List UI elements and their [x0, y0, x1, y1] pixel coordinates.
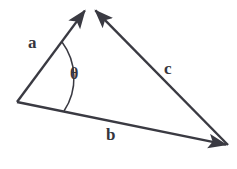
vector-diagram-canvas [0, 0, 237, 169]
vector-a-label: a [28, 34, 37, 51]
vector-c-label: c [164, 60, 172, 77]
vector-a-arrow [17, 11, 85, 102]
vector-b-label: b [106, 126, 115, 143]
vector-b-arrow [17, 102, 226, 145]
vector-triangle-diagram: a b c θ [0, 0, 237, 169]
angle-theta-label: θ [70, 66, 78, 82]
vector-c-arrow [95, 10, 228, 145]
